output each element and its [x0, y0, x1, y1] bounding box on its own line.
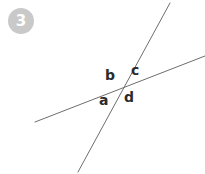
- problem-number-badge: 3: [8, 8, 34, 34]
- geometry-figure: 3 b c a d: [0, 0, 205, 174]
- angle-label-a: a: [99, 93, 108, 107]
- angle-label-c: c: [131, 63, 139, 77]
- angle-label-d: d: [124, 90, 134, 104]
- steep-line: [78, 3, 170, 172]
- angle-label-b: b: [105, 68, 115, 82]
- shallow-line: [35, 56, 205, 122]
